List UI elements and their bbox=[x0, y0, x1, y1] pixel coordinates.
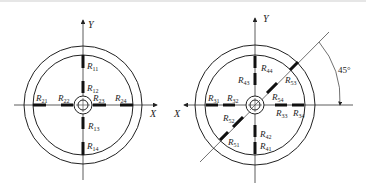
angle-label: 45° bbox=[338, 65, 351, 75]
right-y-label: Y bbox=[263, 13, 270, 24]
label-r34: R34 bbox=[292, 108, 305, 119]
label-r42: R42 bbox=[259, 129, 272, 140]
gauge-r52 bbox=[233, 117, 243, 127]
label-r11: R11 bbox=[86, 61, 98, 72]
label-r14: R14 bbox=[86, 141, 99, 152]
label-r23: R23 bbox=[92, 93, 105, 104]
label-r52: R52 bbox=[222, 113, 235, 124]
label-r51: R51 bbox=[227, 137, 240, 148]
label-r31: R31 bbox=[207, 93, 220, 104]
right-diagram: 45° Y X R31 R32 R33 R34 R41 R42 R43 R44 … bbox=[173, 13, 353, 183]
label-r44: R44 bbox=[260, 63, 273, 74]
gauge-r53 bbox=[290, 62, 298, 70]
label-r43: R43 bbox=[237, 75, 250, 86]
label-r33: R33 bbox=[275, 108, 288, 119]
label-r13: R13 bbox=[87, 121, 100, 132]
label-r41: R41 bbox=[259, 141, 272, 152]
left-x-label: X bbox=[149, 108, 157, 119]
label-r22: R22 bbox=[57, 93, 70, 104]
label-r32: R32 bbox=[226, 93, 239, 104]
label-r53: R53 bbox=[284, 75, 297, 86]
gauge-r51 bbox=[220, 132, 228, 140]
left-y-label: Y bbox=[88, 19, 95, 30]
right-x-label: X bbox=[173, 108, 181, 119]
strain-gauge-diagram: Y X R11 R12 R13 R14 R21 R22 R23 R24 45° bbox=[0, 0, 366, 191]
label-r21: R21 bbox=[35, 93, 48, 104]
label-r54: R54 bbox=[271, 92, 284, 103]
label-r24: R24 bbox=[114, 93, 127, 104]
angle-arc bbox=[319, 42, 340, 105]
left-diagram: Y X R11 R12 R13 R14 R21 R22 R23 R24 bbox=[14, 19, 157, 180]
